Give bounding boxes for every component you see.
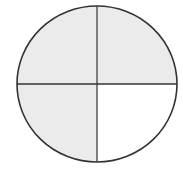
quarter-top-right bbox=[97, 6, 177, 84]
quarter-top-left bbox=[17, 6, 97, 84]
fraction-circle-diagram bbox=[0, 0, 183, 173]
quarter-bottom-right bbox=[97, 84, 177, 162]
quarter-bottom-left bbox=[17, 84, 97, 162]
